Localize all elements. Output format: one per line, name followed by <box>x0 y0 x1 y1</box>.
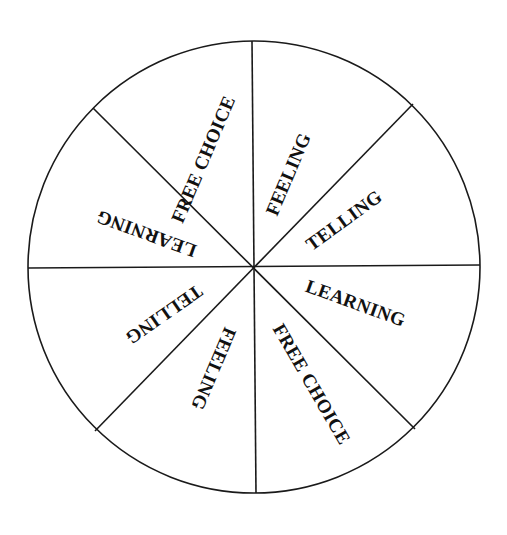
wheel-diagram: FREE CHOICE FEELING TELLING LEARNING FRE… <box>0 0 507 535</box>
